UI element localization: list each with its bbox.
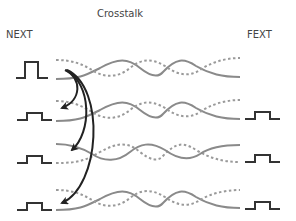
crosstalk-arrows bbox=[62, 70, 94, 203]
small-pulse-icon bbox=[17, 113, 52, 120]
twisted-pair-1 bbox=[16, 58, 240, 79]
small-pulse-icon bbox=[245, 112, 280, 119]
solid-wire bbox=[56, 192, 240, 211]
small-pulse-icon bbox=[17, 203, 52, 210]
small-pulse-icon bbox=[245, 202, 280, 209]
large-pulse-icon bbox=[16, 62, 48, 78]
solid-wire bbox=[56, 103, 240, 122]
crosstalk-diagram bbox=[0, 0, 296, 221]
small-pulse-icon bbox=[245, 155, 280, 162]
twisted-pair-2 bbox=[17, 100, 280, 121]
twisted-pair-4 bbox=[17, 190, 280, 210]
solid-wire bbox=[56, 61, 240, 80]
twisted-pair-3 bbox=[17, 144, 280, 163]
small-pulse-icon bbox=[17, 156, 52, 163]
